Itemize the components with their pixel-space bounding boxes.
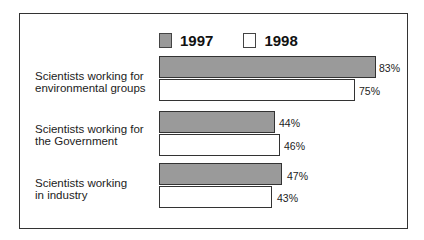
category-label-line: Scientists working for [35, 123, 160, 135]
category-label-line: in industry [35, 189, 160, 201]
bar-value: 43% [277, 192, 298, 204]
bar-1997 [159, 163, 282, 185]
category-label-line: environmental groups [35, 82, 160, 94]
bar-value: 83% [379, 62, 400, 74]
bar-value: 44% [279, 117, 300, 129]
category-label: Scientists working for environmental gro… [35, 70, 160, 94]
bar-1997 [159, 56, 376, 78]
legend-swatch-1998 [243, 33, 256, 48]
legend: 1997 1998 [159, 32, 328, 49]
bar-1998 [159, 134, 280, 156]
legend-label: 1997 [180, 32, 213, 49]
category-label-line: the Government [35, 135, 160, 147]
bar-1998 [159, 186, 272, 208]
bar-value: 47% [287, 170, 308, 182]
legend-item-1998: 1998 [243, 32, 297, 49]
legend-swatch-1997 [159, 33, 172, 48]
category-label: Scientists working for the Government [35, 123, 160, 147]
bar-value: 75% [359, 85, 380, 97]
bar-value: 46% [284, 140, 305, 152]
bar-1998 [159, 79, 355, 101]
category-label-line: Scientists working for [35, 70, 160, 82]
category-label-line: Scientists working [35, 177, 160, 189]
legend-item-1997: 1997 [159, 32, 213, 49]
category-label: Scientists working in industry [35, 177, 160, 201]
bar-1997 [159, 111, 275, 133]
legend-label: 1998 [264, 32, 297, 49]
